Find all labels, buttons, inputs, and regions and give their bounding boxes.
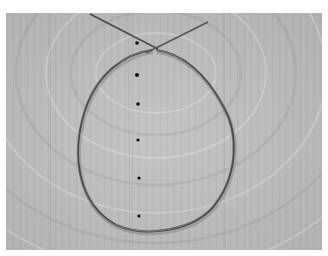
wire-loop-illustration — [6, 13, 322, 250]
photo-wire-loop — [6, 13, 322, 250]
wire-end-left — [90, 14, 158, 49]
dot-row — [135, 41, 141, 217]
wire-end-right — [146, 22, 208, 53]
wire-loop — [78, 50, 234, 231]
